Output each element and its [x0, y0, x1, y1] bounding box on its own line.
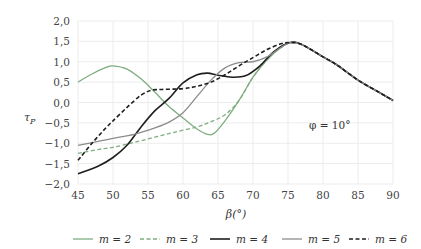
- y-tick-label: −0,5: [45, 117, 71, 129]
- y-tick-label: 1,5: [53, 35, 70, 47]
- x-tick-label: 55: [141, 189, 154, 201]
- legend-label: m = 3: [166, 233, 198, 245]
- legend-label: m = 2: [99, 233, 131, 245]
- x-tick-label: 85: [351, 189, 364, 201]
- x-tick-label: 80: [316, 189, 329, 201]
- y-tick-label: −1,5: [45, 158, 71, 170]
- x-tick-label: 75: [281, 189, 294, 201]
- y-axis-label: τP: [24, 111, 36, 126]
- y-tick-label: −2,0: [45, 178, 71, 190]
- legend: m = 2m = 3m = 4m = 5m = 6: [73, 233, 407, 245]
- phi-annotation: φ = 10°: [309, 119, 350, 131]
- y-tick-label: 0,5: [53, 76, 70, 88]
- y-tick-label: −1,0: [45, 137, 71, 149]
- x-tick-label: 50: [106, 189, 119, 201]
- x-tick-label: 90: [386, 189, 399, 201]
- x-axis-ticks: 45505560657075808590: [71, 189, 399, 201]
- y-tick-label: 1,0: [53, 56, 70, 68]
- grid-lines: [78, 21, 393, 184]
- x-tick-label: 60: [176, 189, 189, 201]
- x-tick-label: 70: [246, 189, 259, 201]
- legend-label: m = 5: [308, 233, 340, 245]
- legend-label: m = 6: [375, 233, 407, 245]
- y-tick-label: 0,0: [53, 97, 70, 109]
- x-tick-label: 45: [71, 189, 84, 201]
- line-chart: 2,01,51,00,50,0−0,5−1,0−1,5−2,0 45505560…: [0, 0, 421, 249]
- y-axis-ticks: 2,01,51,00,50,0−0,5−1,0−1,5−2,0: [45, 15, 71, 190]
- series-line-m6: [78, 43, 393, 161]
- x-tick-label: 65: [211, 189, 224, 201]
- legend-label: m = 4: [236, 233, 268, 245]
- x-axis-label: β(°): [225, 208, 246, 221]
- y-tick-label: 2,0: [53, 15, 70, 27]
